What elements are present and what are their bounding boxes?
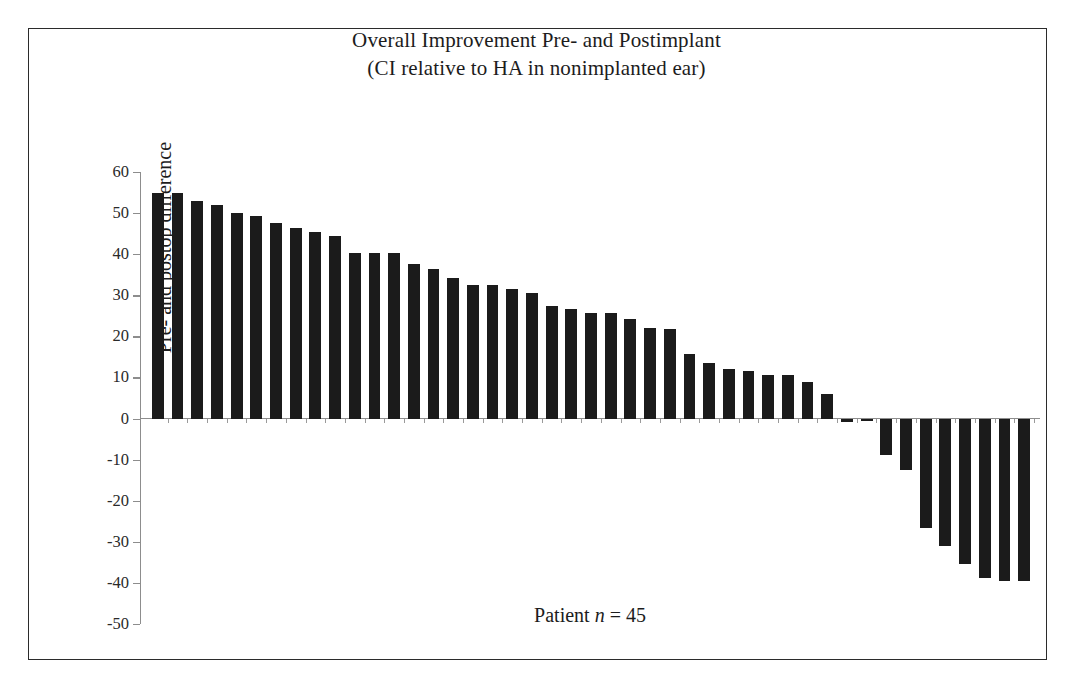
x-tick xyxy=(502,419,503,423)
y-tick-label-50: 50 xyxy=(113,203,130,223)
bar xyxy=(684,354,696,419)
x-tick xyxy=(857,419,858,423)
y-tick-10 xyxy=(133,377,140,378)
y-tick--20 xyxy=(133,501,140,502)
bar xyxy=(526,293,538,418)
bar xyxy=(880,419,892,455)
bar xyxy=(290,228,302,418)
bar xyxy=(231,213,243,418)
y-tick--40 xyxy=(133,583,140,584)
bar xyxy=(664,329,676,419)
y-tick-label-10: 10 xyxy=(113,367,130,387)
x-tick xyxy=(817,419,818,423)
x-tick xyxy=(660,419,661,423)
bar xyxy=(565,309,577,419)
y-tick-label--50: -50 xyxy=(107,614,129,634)
x-tick xyxy=(542,419,543,423)
x-tick xyxy=(876,419,877,423)
y-axis-tick-labels: 6050403020100-10-20-30-40-50 xyxy=(84,172,129,624)
y-tick-label-0: 0 xyxy=(121,409,129,429)
x-tick xyxy=(936,419,937,423)
x-axis-caption: Patient n = 45 xyxy=(140,604,1040,627)
bar xyxy=(270,223,282,418)
bar xyxy=(309,232,321,418)
x-tick xyxy=(246,419,247,423)
y-axis-line xyxy=(140,172,141,624)
y-tick-30 xyxy=(133,295,140,296)
x-tick xyxy=(424,419,425,423)
x-tick xyxy=(286,419,287,423)
x-tick xyxy=(699,419,700,423)
bar xyxy=(191,201,203,419)
bar xyxy=(467,285,479,419)
y-tick-label--40: -40 xyxy=(107,573,129,593)
bar xyxy=(802,382,814,419)
bar xyxy=(624,319,636,418)
bar xyxy=(644,328,656,418)
bar xyxy=(211,205,223,419)
x-tick xyxy=(404,419,405,423)
x-tick xyxy=(463,419,464,423)
x-tick xyxy=(207,419,208,423)
bar xyxy=(959,419,971,565)
x-tick xyxy=(1014,419,1015,423)
x-tick xyxy=(581,419,582,423)
bar xyxy=(408,264,420,418)
y-tick-60 xyxy=(133,172,140,173)
bar xyxy=(329,236,341,418)
bar xyxy=(762,375,774,419)
bar xyxy=(428,269,440,419)
y-tick-label--10: -10 xyxy=(107,450,129,470)
bar xyxy=(920,419,932,528)
x-tick xyxy=(621,419,622,423)
bar xyxy=(172,193,184,419)
x-tick xyxy=(680,419,681,423)
x-tick xyxy=(187,419,188,423)
bar xyxy=(585,313,597,418)
x-tick xyxy=(601,419,602,423)
bar xyxy=(723,369,735,418)
x-tick xyxy=(1034,419,1035,423)
x-tick xyxy=(483,419,484,423)
y-tick--30 xyxy=(133,542,140,543)
bar xyxy=(743,371,755,418)
bar xyxy=(152,193,164,419)
x-axis-caption-suffix: = 45 xyxy=(605,604,646,626)
y-tick-0 xyxy=(133,419,140,420)
bar xyxy=(821,394,833,419)
x-tick xyxy=(306,419,307,423)
x-tick xyxy=(995,419,996,423)
bar xyxy=(703,363,715,418)
x-tick xyxy=(837,419,838,423)
x-tick xyxy=(719,419,720,423)
bar xyxy=(939,419,951,546)
y-tick-20 xyxy=(133,336,140,337)
bar xyxy=(369,253,381,419)
x-tick xyxy=(325,419,326,423)
bar xyxy=(605,313,617,418)
x-tick xyxy=(758,419,759,423)
x-tick xyxy=(365,419,366,423)
x-tick xyxy=(896,419,897,423)
x-axis-caption-prefix: Patient xyxy=(534,604,595,626)
y-tick-50 xyxy=(133,213,140,214)
plot-area xyxy=(140,172,1040,624)
y-tick-40 xyxy=(133,254,140,255)
bar xyxy=(900,419,912,470)
y-tick-label-30: 30 xyxy=(113,285,130,305)
x-tick xyxy=(798,419,799,423)
x-tick xyxy=(168,419,169,423)
bar xyxy=(388,253,400,419)
bar xyxy=(782,375,794,418)
bar xyxy=(1018,419,1030,581)
y-tick--10 xyxy=(133,460,140,461)
bar xyxy=(979,419,991,578)
y-tick-label--30: -30 xyxy=(107,532,129,552)
bar xyxy=(487,285,499,419)
x-tick xyxy=(739,419,740,423)
bar xyxy=(447,278,459,419)
bar xyxy=(250,216,262,419)
x-tick xyxy=(640,419,641,423)
x-tick xyxy=(384,419,385,423)
figure-canvas: Overall Improvement Pre- and Postimplant… xyxy=(0,0,1073,689)
